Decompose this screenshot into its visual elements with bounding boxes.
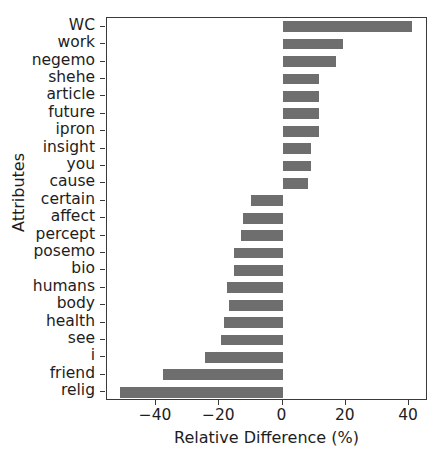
y-tick-label: ipron [56,122,95,138]
y-tick-mark [100,43,105,44]
y-tick-mark [100,269,105,270]
y-tick-label: future [48,105,95,121]
bar [163,369,283,380]
bar [283,39,343,50]
bar [283,143,311,154]
bar [251,195,283,206]
y-axis-title: Attributes [9,123,28,263]
bar [283,56,337,67]
y-tick-label: shehe [48,70,95,86]
y-tick-mark [100,339,105,340]
y-tick-mark [100,95,105,96]
y-tick-label: bio [71,261,95,277]
x-tick-label: 0 [277,406,287,424]
bar [227,282,282,293]
bar [283,108,319,119]
x-tick-mark [218,400,219,405]
x-tick-mark [155,400,156,405]
y-tick-mark [100,113,105,114]
y-tick-label: posemo [33,244,95,260]
y-tick-mark [100,26,105,27]
x-tick-mark [408,400,409,405]
y-tick-mark [100,322,105,323]
y-tick-mark [100,235,105,236]
bar [283,21,413,32]
y-tick-label: insight [43,140,95,156]
bar [221,335,283,346]
x-tick-label: −20 [202,406,235,424]
bar [120,387,283,398]
bar [224,317,283,328]
bar [241,230,282,241]
x-axis-title: Relative Difference (%) [106,428,427,447]
bar [205,352,282,363]
y-tick-label: i [91,348,95,364]
bar [283,126,319,137]
plot-area [106,17,427,400]
x-tick-label: 40 [398,406,418,424]
y-tick-mark [100,252,105,253]
y-tick-label: cause [50,174,95,190]
y-tick-mark [100,148,105,149]
y-tick-mark [100,78,105,79]
y-tick-label: certain [41,192,95,208]
x-tick-label: 20 [335,406,355,424]
x-tick-mark [345,400,346,405]
x-tick-mark [282,400,283,405]
y-tick-label: work [57,35,95,51]
y-tick-mark [100,130,105,131]
y-tick-label: see [68,331,95,347]
y-tick-label: you [67,157,95,173]
y-tick-mark [100,200,105,201]
bar [283,74,319,85]
bar [229,300,283,311]
y-tick-label: affect [51,209,95,225]
bar [283,161,311,172]
x-tick-label: −40 [139,406,172,424]
y-tick-mark [100,217,105,218]
y-tick-mark [100,374,105,375]
bar [243,213,283,224]
y-tick-mark [100,165,105,166]
y-tick-mark [100,182,105,183]
chart-figure: Attributes WCworknegemoshehearticlefutur… [0,0,435,454]
y-tick-label: relig [61,383,95,399]
y-tick-mark [100,304,105,305]
bar [283,91,319,102]
y-tick-mark [100,287,105,288]
y-tick-label: WC [69,18,95,34]
y-tick-label: negemo [32,53,95,69]
bar [283,178,308,189]
y-tick-label: health [46,314,95,330]
y-tick-label: friend [50,366,95,382]
bars-layer [107,18,426,399]
y-tick-label: percept [36,227,95,243]
y-tick-mark [100,391,105,392]
y-tick-mark [100,61,105,62]
y-tick-label: body [57,296,95,312]
bar [234,248,283,259]
y-tick-label: humans [33,279,95,295]
y-tick-mark [100,356,105,357]
y-tick-label: article [46,87,95,103]
bar [234,265,283,276]
